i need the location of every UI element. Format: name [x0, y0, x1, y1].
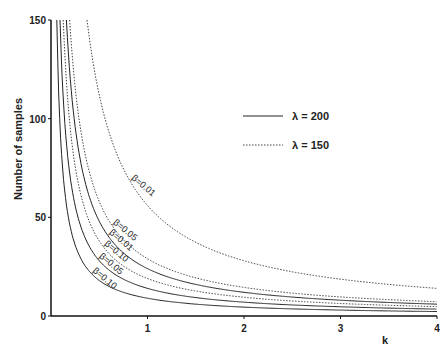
x-axis-label: k	[382, 334, 389, 346]
y-tick-label: 0	[40, 311, 46, 322]
axes	[51, 20, 437, 316]
x-tick-label: 1	[145, 323, 151, 334]
chart: 1234050100150 β=0.01β=0.05β=0.01β=0.10β=…	[0, 0, 448, 356]
legend-dotted-label: λ = 150	[292, 139, 329, 151]
curve-label: β=0.01	[130, 173, 158, 199]
legend: λ = 200 λ = 150	[243, 110, 329, 151]
y-axis-label: Number of samples	[12, 98, 24, 200]
y-tick-label: 50	[35, 212, 47, 223]
x-tick-label: 2	[241, 323, 247, 334]
y-tick-label: 100	[29, 114, 46, 125]
y-tick-label: 150	[29, 15, 46, 26]
curve-0	[87, 20, 436, 288]
x-tick-label: 3	[338, 323, 344, 334]
legend-solid-label: λ = 200	[292, 110, 329, 122]
x-tick-label: 4	[434, 323, 440, 334]
